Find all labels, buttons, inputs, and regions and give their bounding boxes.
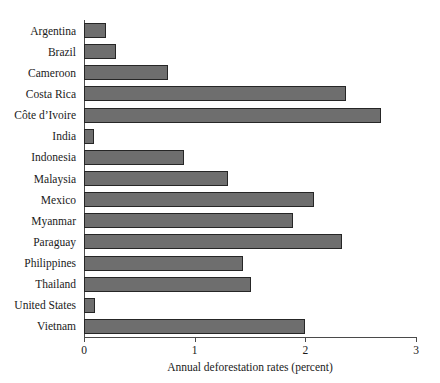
category-label: Paraguay xyxy=(33,236,76,248)
category-label: India xyxy=(52,130,76,142)
bar xyxy=(84,234,342,249)
bar xyxy=(84,86,346,101)
x-axis-line xyxy=(84,337,416,338)
category-label: Brazil xyxy=(48,46,76,58)
x-axis-tick xyxy=(416,337,417,342)
deforestation-bar-chart: ArgentinaBrazilCameroonCosta RicaCôte d’… xyxy=(0,0,440,383)
bar xyxy=(84,277,251,292)
bars-layer xyxy=(84,20,416,337)
bar xyxy=(84,298,95,313)
category-label: Thailand xyxy=(35,278,76,290)
bar xyxy=(84,129,94,144)
category-label: Philippines xyxy=(24,257,76,269)
category-label: Costa Rica xyxy=(26,88,76,100)
bar xyxy=(84,44,116,59)
x-axis-tick xyxy=(84,337,85,342)
bar xyxy=(84,23,106,38)
x-axis-tick-label: 0 xyxy=(69,344,99,357)
category-label: Myanmar xyxy=(31,215,76,227)
bar xyxy=(84,108,381,123)
category-label: United States xyxy=(14,299,76,311)
category-label: Argentina xyxy=(30,25,76,37)
x-axis-tick-label: 2 xyxy=(290,344,320,357)
category-label: Malaysia xyxy=(34,173,76,185)
x-axis-tick xyxy=(305,337,306,342)
category-label: Côte d’Ivoire xyxy=(14,109,76,121)
bar xyxy=(84,171,228,186)
category-axis-labels: ArgentinaBrazilCameroonCosta RicaCôte d’… xyxy=(0,20,80,337)
category-label: Cameroon xyxy=(28,67,76,79)
x-axis-title: Annual deforestation rates (percent) xyxy=(84,361,416,374)
bar xyxy=(84,150,184,165)
bar xyxy=(84,256,243,271)
x-axis-tick-label: 1 xyxy=(180,344,210,357)
x-axis-tick-label: 3 xyxy=(401,344,431,357)
bar xyxy=(84,192,314,207)
category-label: Indonesia xyxy=(31,151,76,163)
bar xyxy=(84,65,168,80)
plot-area xyxy=(84,20,416,337)
category-label: Vietnam xyxy=(37,320,76,332)
bar xyxy=(84,213,293,228)
bar xyxy=(84,319,305,334)
category-label: Mexico xyxy=(41,194,76,206)
x-axis-tick xyxy=(195,337,196,342)
